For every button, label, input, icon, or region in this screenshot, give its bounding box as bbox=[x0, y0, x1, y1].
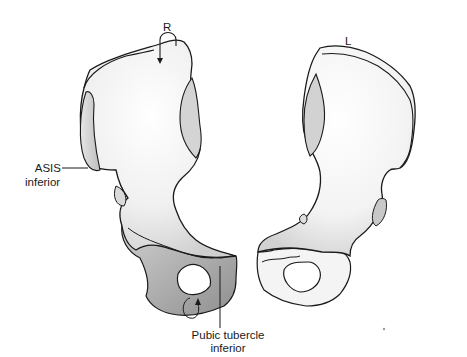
right-ilium bbox=[80, 40, 236, 258]
side-label-left: L bbox=[345, 35, 351, 48]
asis-label-sub: inferior bbox=[25, 176, 60, 189]
pelvis-illustration bbox=[0, 0, 467, 357]
right-hip-bone bbox=[80, 40, 237, 315]
pubic-tubercle-label: Pubic tubercle inferior bbox=[185, 329, 271, 355]
left-hip-bone bbox=[257, 46, 415, 306]
asis-label-line1: ASIS bbox=[29, 162, 61, 175]
side-label-right: R bbox=[163, 21, 171, 34]
pubic-tubercle-label-line1: Pubic tubercle bbox=[185, 329, 271, 342]
left-ischial-spine bbox=[300, 214, 308, 224]
stray-mark bbox=[383, 328, 385, 330]
asis-label: ASIS bbox=[29, 162, 61, 175]
left-ilium bbox=[258, 46, 415, 256]
asis-label-line2: inferior bbox=[25, 176, 60, 189]
pubic-tubercle-label-line2: inferior bbox=[185, 342, 271, 355]
